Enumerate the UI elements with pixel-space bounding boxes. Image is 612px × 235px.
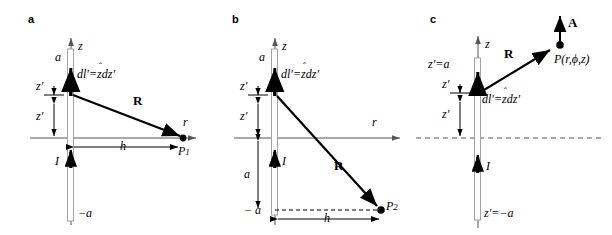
- offset-lower-label-c: z′: [442, 108, 449, 120]
- panel-b-graphic: [204, 0, 408, 235]
- source-element-text-b: dl′=: [281, 67, 301, 81]
- figure-root: a: [0, 0, 612, 235]
- axis-label-z-c: z: [485, 38, 490, 50]
- source-diff-b: dz′: [306, 67, 319, 81]
- source-element-text-a: dl′=: [77, 67, 97, 81]
- panel-c-graphic: [408, 0, 612, 235]
- source-element-text-c: dl′=: [482, 92, 502, 106]
- offset-upper-label-a: z′: [36, 80, 43, 92]
- wire-top-label-a: a: [55, 51, 61, 63]
- dimension-a-label-b: a: [244, 168, 250, 180]
- current-label-c: I: [486, 160, 490, 172]
- offset-upper-label-b: z′: [240, 80, 247, 92]
- axis-label-r-b: r: [372, 116, 377, 128]
- dimension-h-label-a: h: [120, 140, 126, 152]
- panel-a: a: [0, 0, 204, 235]
- current-label-b: I: [282, 155, 286, 167]
- wire-top-label-c: z′=a: [428, 58, 449, 70]
- source-diff-a: dz′: [102, 67, 115, 81]
- unit-vector-z-a: ̂z: [97, 67, 102, 81]
- distance-vector-label-a: R: [133, 95, 142, 107]
- axis-label-r-a: r: [183, 116, 188, 128]
- panel-b: b: [204, 0, 408, 235]
- source-element-label-c: dl′=̂zdz′: [482, 93, 520, 105]
- panel-c: c z z′=a z′=: [408, 0, 612, 235]
- wire-bottom-label-a: −a: [78, 207, 92, 219]
- offset-upper-label-c: z′: [442, 78, 449, 90]
- current-label-a: I: [55, 155, 59, 167]
- offset-lower-label-b: z′: [240, 110, 247, 122]
- source-element-label-b: dl′=̂zdz′: [281, 68, 319, 80]
- source-element-label-a: dl′=̂zdz′: [77, 68, 115, 80]
- wire-bottom-label-b: − a: [244, 204, 261, 216]
- distance-vector-label-b: R: [334, 160, 343, 172]
- axis-label-z-a: z: [78, 40, 83, 52]
- unit-vector-z-b: ̂z: [301, 67, 306, 81]
- panel-a-graphic: [0, 0, 204, 235]
- unit-vector-z-c: ̂z: [502, 92, 507, 106]
- vector-potential-label-c: A: [568, 17, 577, 29]
- wire-top-label-b: a: [259, 51, 265, 63]
- field-point-label-b: P2: [386, 200, 398, 213]
- axis-label-z-b: z: [282, 40, 287, 52]
- field-point-label-c: P(r,ϕ,z): [554, 53, 590, 65]
- field-point-label-a: P1: [178, 145, 190, 158]
- distance-vector-label-c: R: [504, 48, 513, 60]
- dimension-h-label-b: h: [324, 212, 330, 224]
- wire-bottom-label-c: z′=−a: [484, 207, 514, 219]
- offset-lower-label-a: z′: [36, 110, 43, 122]
- source-diff-c: dz′: [507, 92, 520, 106]
